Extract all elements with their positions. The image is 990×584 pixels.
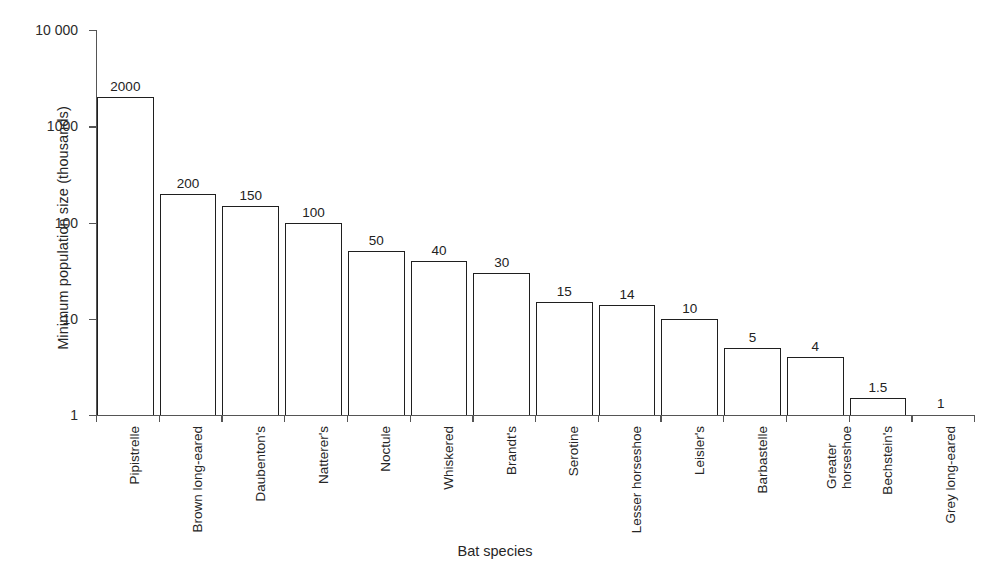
- y-tick-label: 10 000: [35, 22, 78, 38]
- bar-value-label: 100: [302, 205, 325, 220]
- x-category-label-line: Natterer's: [316, 426, 331, 484]
- y-tick-label: 10: [62, 311, 78, 327]
- y-tick-mark: 10: [89, 319, 96, 320]
- bar: 14: [599, 305, 656, 415]
- x-tick-mark: [911, 415, 912, 422]
- y-tick-mark: 1000: [89, 126, 96, 127]
- bar-value-label: 30: [494, 255, 509, 270]
- x-category-label: Brown long-eared: [190, 426, 205, 533]
- x-category-label: Noctule: [378, 426, 393, 472]
- x-tick-mark: [974, 415, 975, 422]
- x-category-label: Whiskered: [441, 426, 456, 490]
- y-tick-label: 100: [55, 215, 78, 231]
- x-tick-mark: [410, 415, 411, 422]
- bar-value-label: 10: [682, 301, 697, 316]
- x-tick-mark: [723, 415, 724, 422]
- x-category-label: Barbastelle: [755, 426, 770, 494]
- x-category-label-line: Brown long-eared: [190, 426, 205, 533]
- y-tick-mark: 1: [89, 415, 96, 416]
- x-category-label: Bechstein's: [880, 426, 895, 495]
- x-category-label: Grey long-eared: [943, 426, 958, 524]
- x-category-label-line: Greater: [824, 443, 839, 489]
- bar: 4: [787, 357, 844, 415]
- x-tick-mark: [849, 415, 850, 422]
- y-tick-mark: 10 000: [89, 30, 96, 31]
- x-category-label: Leisler's: [692, 426, 707, 475]
- bar: 30: [473, 273, 530, 415]
- x-category-label-line: Lesser horseshoe: [629, 426, 644, 533]
- x-tick-mark: [786, 415, 787, 422]
- bar-value-label: 200: [177, 176, 200, 191]
- y-tick-mark: 100: [89, 223, 96, 224]
- bar: 10: [661, 319, 718, 415]
- x-category-label-line: horseshoe: [839, 426, 854, 489]
- bar-value-label: 1.5: [869, 380, 888, 395]
- x-category-label-line: Daubenton's: [253, 426, 268, 501]
- plot-area: 10 0001000100101 20002001501005040301514…: [96, 30, 974, 415]
- x-category-label-line: Bechstein's: [880, 426, 895, 495]
- bar: 2000: [97, 97, 154, 415]
- bar: 50: [348, 251, 405, 415]
- x-category-label: Pipistrelle: [127, 426, 142, 485]
- x-tick-mark: [535, 415, 536, 422]
- bar-value-label: 150: [240, 188, 263, 203]
- bar-value-label: 15: [557, 284, 572, 299]
- x-tick-mark: [598, 415, 599, 422]
- x-category-label-line: Whiskered: [441, 426, 456, 490]
- x-category-label: Greaterhorseshoe: [824, 426, 854, 489]
- x-category-label: Brandt's: [504, 426, 519, 475]
- x-category-label-line: Grey long-eared: [943, 426, 958, 524]
- bar: 150: [222, 206, 279, 415]
- x-category-label: Daubenton's: [253, 426, 268, 501]
- x-category-label-line: Barbastelle: [755, 426, 770, 494]
- bar: 40: [411, 261, 468, 415]
- x-tick-mark: [221, 415, 222, 422]
- bar: 1.5: [850, 398, 907, 415]
- bar-value-label: 5: [749, 330, 757, 345]
- bar-value-label: 4: [811, 339, 819, 354]
- x-category-label: Natterer's: [316, 426, 331, 484]
- y-tick-label: 1000: [47, 118, 78, 134]
- x-category-label: Lesser horseshoe: [629, 426, 644, 533]
- x-tick-mark: [347, 415, 348, 422]
- y-tick-label: 1: [70, 407, 78, 423]
- x-tick-mark: [472, 415, 473, 422]
- bar-value-label: 1: [937, 396, 945, 411]
- bar-value-label: 14: [620, 287, 635, 302]
- x-tick-mark: [284, 415, 285, 422]
- x-category-label-line: Leisler's: [692, 426, 707, 475]
- bat-population-chart: Minimum population size (thousands) 10 0…: [0, 0, 990, 584]
- bar: 5: [724, 348, 781, 415]
- bar: 100: [285, 223, 342, 416]
- bar-value-label: 2000: [110, 79, 140, 94]
- x-tick-mark: [660, 415, 661, 422]
- x-category-label-line: Serotine: [566, 426, 581, 476]
- bar: 15: [536, 302, 593, 415]
- bar: 200: [160, 194, 217, 415]
- x-category-label: Serotine: [566, 426, 581, 476]
- bar-value-label: 40: [431, 243, 446, 258]
- x-category-label-line: Brandt's: [504, 426, 519, 475]
- x-tick-mark: [96, 415, 97, 422]
- bar-value-label: 50: [369, 233, 384, 248]
- x-tick-mark: [159, 415, 160, 422]
- x-category-label-line: Pipistrelle: [127, 426, 142, 485]
- x-category-label-line: Noctule: [378, 426, 393, 472]
- x-axis-title: Bat species: [0, 543, 990, 559]
